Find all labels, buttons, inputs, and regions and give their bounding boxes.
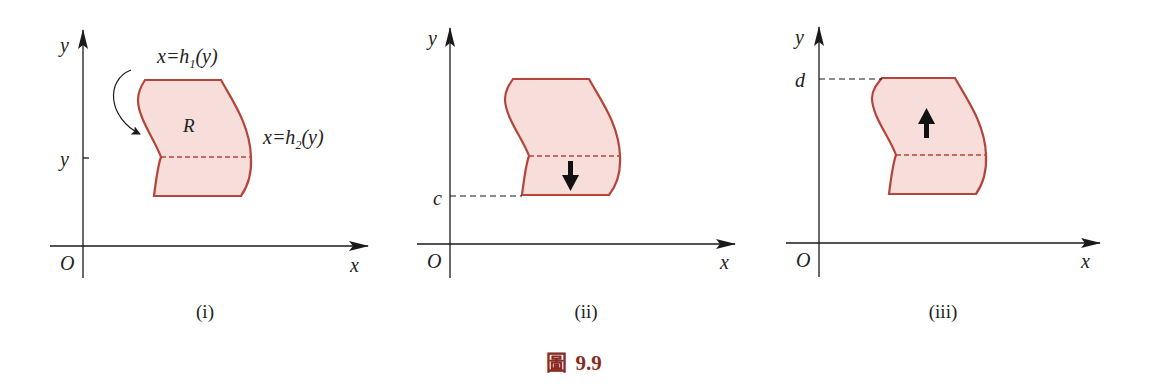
- figure-canvas: y y O x R x=h1(y) x=h2(y) (i) y c O x (i…: [0, 0, 1151, 391]
- origin-label: O: [796, 249, 810, 271]
- x-axis-label: x: [1080, 250, 1090, 272]
- tick-label-c: c: [433, 187, 442, 209]
- panel-ii: y c O x (ii): [417, 27, 735, 323]
- curved-pointer-arrow: [114, 70, 140, 134]
- y-axis-label: y: [58, 34, 69, 57]
- panel-caption: (iii): [929, 301, 958, 323]
- panel-caption: (ii): [574, 301, 597, 323]
- y-axis-label: y: [426, 27, 437, 50]
- figure-caption: 圖9.9: [546, 351, 601, 375]
- region: [505, 79, 620, 195]
- region-r: [138, 80, 251, 196]
- panel-caption: (i): [196, 301, 214, 323]
- region: [872, 78, 986, 194]
- left-curve-label: x=h1(y): [156, 45, 218, 71]
- x-axis-label: x: [719, 251, 729, 273]
- origin-label: O: [60, 252, 74, 274]
- x-axis-label: x: [349, 254, 359, 276]
- region-label: R: [182, 115, 195, 136]
- tick-label-y: y: [58, 148, 69, 171]
- panel-iii: y d O x (iii): [786, 26, 1100, 323]
- panel-i: y y O x R x=h1(y) x=h2(y) (i): [50, 30, 368, 323]
- tick-label-d: d: [795, 69, 806, 91]
- origin-label: O: [427, 250, 441, 272]
- right-curve-label: x=h2(y): [262, 126, 324, 152]
- y-axis-label: y: [793, 26, 804, 49]
